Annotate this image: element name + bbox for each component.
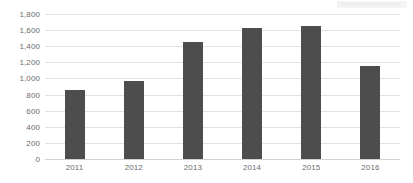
y-tick-label: 0 <box>35 155 40 164</box>
x-tick-label: 2015 <box>302 163 320 173</box>
y-tick-label: 1,400 <box>19 42 40 51</box>
y-axis: 02004006008001,0001,2001,4001,6001,800 <box>0 14 40 159</box>
gridline <box>45 159 400 160</box>
y-tick-label: 1,000 <box>19 74 40 83</box>
y-tick-label: 1,600 <box>19 26 40 35</box>
bar <box>65 90 85 159</box>
bar <box>183 42 203 159</box>
y-tick-label: 400 <box>26 122 40 131</box>
bar-chart: 02004006008001,0001,2001,4001,6001,800 2… <box>0 0 413 183</box>
y-tick-label: 200 <box>26 138 40 147</box>
watermark-artifact <box>337 1 407 8</box>
y-tick-label: 800 <box>26 90 40 99</box>
bar <box>124 81 144 159</box>
x-tick-label: 2013 <box>184 163 202 173</box>
y-tick-label: 1,200 <box>19 58 40 67</box>
bar <box>301 26 321 159</box>
x-tick-label: 2016 <box>361 163 379 173</box>
x-tick-label: 2011 <box>66 163 84 173</box>
x-tick-label: 2014 <box>243 163 261 173</box>
bar-series <box>45 14 400 159</box>
y-tick-label: 1,800 <box>19 10 40 19</box>
bar <box>242 28 262 159</box>
x-axis: 201120122013201420152016 <box>45 163 400 177</box>
x-tick-label: 2012 <box>125 163 143 173</box>
y-tick-label: 600 <box>26 106 40 115</box>
bar <box>360 66 380 159</box>
